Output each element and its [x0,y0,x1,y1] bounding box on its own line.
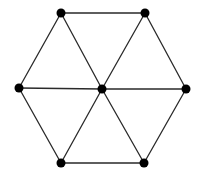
vertex-center [98,85,107,94]
vertex-top-left [57,9,66,18]
vertex-right [182,85,191,94]
edge-left-top-left [19,13,61,88]
edge-top-right-right [145,13,186,89]
wheel-graph-diagram [0,0,208,183]
edge-bottom-left-left [19,88,61,163]
vertex-bottom-right [140,159,149,168]
vertex-bottom-left [57,159,66,168]
edge-center-top-left [61,13,102,89]
edge-center-left [19,88,102,89]
vertex-top-right [141,9,150,18]
vertex-left [15,84,24,93]
edge-center-bottom-right [102,89,144,163]
edge-center-bottom-left [61,89,102,163]
edge-center-top-right [102,13,145,89]
edge-right-bottom-right [144,89,186,163]
